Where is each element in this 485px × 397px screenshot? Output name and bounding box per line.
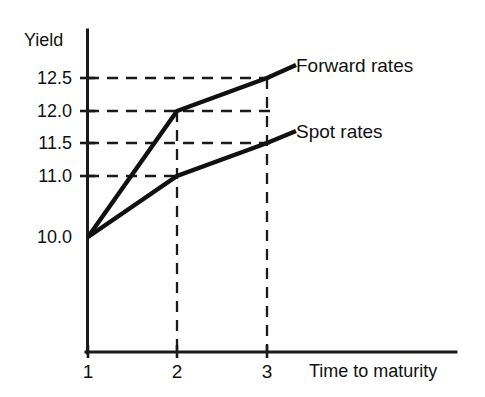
y-axis-title: Yield: [24, 31, 63, 49]
x-tick-label-3: 3: [254, 362, 280, 381]
series-label-spot-rates: Spot rates: [296, 122, 383, 141]
y-tick-label-11-0: 11.0: [10, 167, 72, 185]
x-tick-label-1: 1: [75, 362, 101, 381]
forward-rates-line: [88, 65, 296, 237]
y-tick-label-10-0: 10.0: [10, 228, 72, 246]
y-tick-label-12-0: 12.0: [10, 102, 72, 120]
spot-rates-line: [88, 131, 296, 237]
y-tick-label-11-5: 11.5: [10, 134, 72, 152]
series-label-forward-rates: Forward rates: [296, 56, 413, 75]
y-tick-label-12-5: 12.5: [10, 69, 72, 87]
x-tick-label-2: 2: [164, 362, 190, 381]
x-axis-title: Time to maturity: [309, 362, 437, 380]
yield-curve-figure: Yield 12.5 12.0 11.5 11.0 10.0 1 2 3 Tim…: [0, 0, 485, 397]
